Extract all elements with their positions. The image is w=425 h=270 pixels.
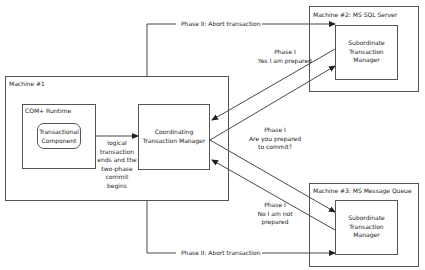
phase2-top-label: Phase II: Abort transaction [181,20,261,28]
transactional-component-label: Transactional Component [37,128,81,145]
machine3-subordinate-label: Subordinate Transaction Manager [335,214,398,240]
phase1-yes-label: Phase I Yes I am prepared [250,48,320,65]
coordinating-tm-label: Coordinating Transaction Manager [138,128,210,145]
phase2-bottom-label: Phase II: Abort transaction [181,249,261,257]
machine1-title: Machine #1 [9,80,45,88]
phase2-top-connector [147,24,176,76]
machine2-title: Machine #2: MS SQL Server [313,11,397,19]
machine2-subordinate-label: Subordinate Transaction Manager [335,39,398,65]
phase1-no-label: Phase I No I am not prepared [250,201,300,227]
handoff-label: logical transaction ends and the two-pha… [96,139,138,191]
machine3-title: Machine #3: MS Message Queue [313,187,412,195]
com-runtime-title: COM+ Runtime [25,107,71,115]
phase1-ask-label: Phase I Are you prepared to commit? [240,126,310,152]
phase2-bottom-connector [147,200,176,253]
